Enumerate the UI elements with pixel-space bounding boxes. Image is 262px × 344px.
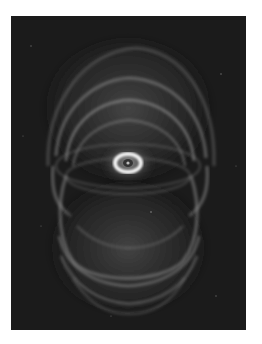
central-ring [100,143,156,183]
lower-lobe [46,169,210,314]
nebula-illustration [11,16,246,330]
nebula-photo [11,16,246,330]
